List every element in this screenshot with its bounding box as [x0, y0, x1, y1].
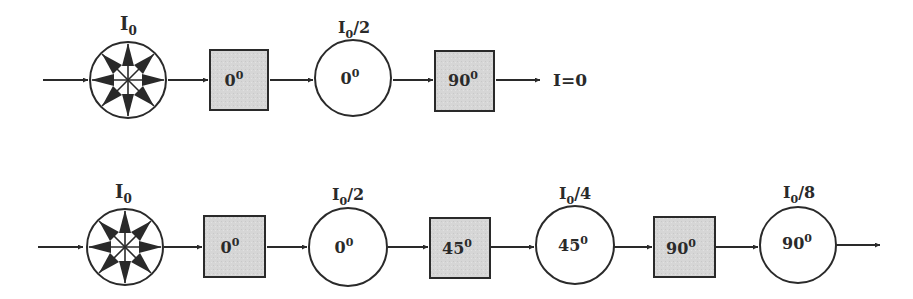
- intensity-label: I0/4: [559, 184, 591, 207]
- polarization-state-0: 00: [315, 40, 391, 116]
- unpolarized-light-icon: [90, 42, 166, 118]
- source-intensity-label: I0: [120, 13, 137, 38]
- polarizer-filter-45: 450: [430, 218, 490, 278]
- polarizer-filter-90: 900: [435, 51, 494, 111]
- row-2: I0 00 00 I0/2 450 450 I0/4 900: [38, 181, 880, 286]
- polarization-state-45: 450: [536, 206, 614, 284]
- polarizer-diagram: I0 00 00 I0/2 900 I=0 I0 00: [0, 0, 913, 299]
- intensity-label: I0/2: [332, 185, 364, 208]
- intensity-label: I0/8: [783, 183, 815, 206]
- polarizer-filter-0: 00: [210, 50, 268, 110]
- source-intensity-label: I0: [115, 181, 132, 206]
- unpolarized-light-icon: [87, 209, 163, 285]
- polarization-state-0: 00: [309, 208, 387, 286]
- output-intensity-label: I=0: [553, 70, 587, 90]
- polarizer-filter-90: 900: [654, 217, 715, 277]
- polarizer-filter-0: 00: [204, 216, 265, 277]
- polarization-state-90: 900: [760, 207, 836, 283]
- intensity-label: I0/2: [338, 18, 370, 41]
- row-1: I0 00 00 I0/2 900 I=0: [43, 13, 587, 118]
